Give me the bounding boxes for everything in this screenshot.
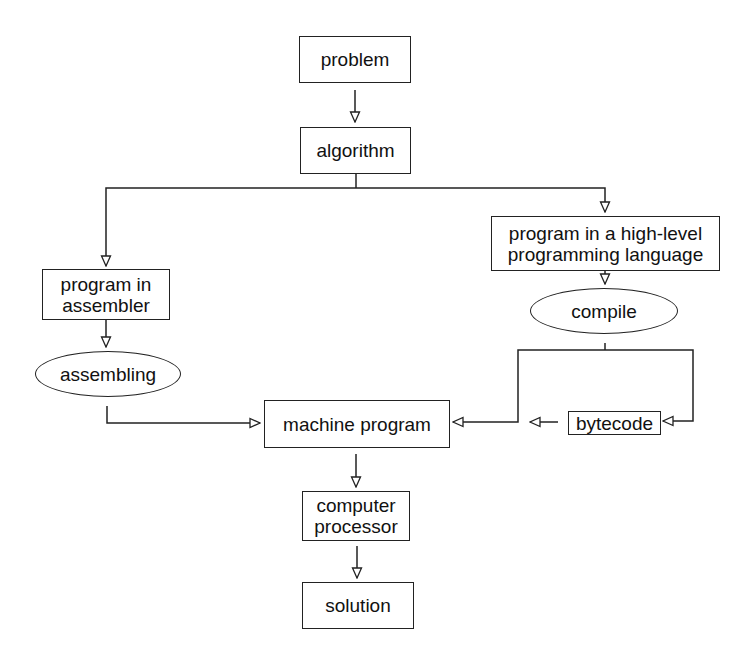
node-program-in-assembler: program in assembler: [42, 269, 170, 320]
node-compile-label: compile: [571, 301, 636, 322]
node-processor-label: computer processor: [314, 495, 397, 537]
node-assembler-label: program in assembler: [61, 274, 152, 316]
node-problem-label: problem: [321, 49, 390, 70]
node-bytecode-label: bytecode: [576, 413, 653, 434]
node-algorithm-label: algorithm: [316, 140, 394, 161]
node-solution-label: solution: [325, 595, 391, 616]
node-assembling-label: assembling: [60, 364, 156, 385]
edge-assembling-machine: [107, 406, 260, 423]
node-compile: compile: [530, 288, 678, 334]
node-bytecode: bytecode: [568, 411, 661, 435]
connector-lines: [0, 0, 751, 666]
node-solution: solution: [302, 582, 414, 629]
node-machine-program: machine program: [264, 400, 450, 448]
edge-algorithm-highlevel: [356, 188, 605, 212]
node-program-high-level: program in a high-level programming lang…: [491, 216, 720, 271]
node-problem: problem: [299, 36, 411, 83]
node-computer-processor: computer processor: [302, 491, 410, 541]
node-machine-label: machine program: [283, 414, 431, 435]
node-assembling: assembling: [35, 351, 181, 397]
edge-algorithm-assembler: [106, 188, 356, 266]
node-algorithm: algorithm: [300, 127, 411, 174]
node-highlevel-label: program in a high-level programming lang…: [508, 223, 703, 265]
